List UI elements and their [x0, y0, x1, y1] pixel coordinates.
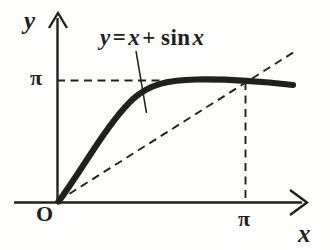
y-axis	[49, 13, 67, 202]
identity-line-y-equals-x	[58, 52, 294, 201]
annotation-leader-line	[136, 51, 147, 113]
y-axis-label: y	[24, 8, 35, 33]
equation-annotation-label: y=x+sinx	[100, 26, 205, 49]
equation-equals-sign: =	[111, 25, 129, 50]
equation-sin-argument: x	[193, 25, 205, 50]
equation-sin-function: sin	[158, 25, 193, 50]
x-tick-label-pi: π	[238, 208, 250, 230]
origin-label: O	[36, 203, 53, 225]
equation-plus-sign: +	[140, 25, 158, 50]
y-tick-label-pi: π	[30, 67, 42, 89]
curve-y-equals-x-plus-sin-x	[59, 79, 294, 201]
equation-lhs: y	[100, 25, 111, 50]
x-axis-label: x	[298, 221, 311, 246]
equation-term-x: x	[128, 25, 140, 50]
graph-figure: y=x+sinx y x π π O	[0, 0, 330, 250]
